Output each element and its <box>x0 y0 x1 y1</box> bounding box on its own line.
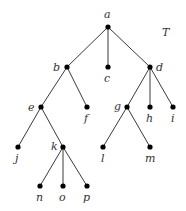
node-k <box>60 144 65 149</box>
node-c <box>105 64 110 69</box>
edge-a-d <box>108 27 150 67</box>
node-label-p: p <box>83 191 90 204</box>
node-p <box>84 183 89 188</box>
node-label-f: f <box>83 112 90 125</box>
edge-d-g <box>127 67 150 107</box>
node-label-l: l <box>101 152 105 165</box>
node-f <box>84 104 89 109</box>
edge-a-b <box>67 27 108 67</box>
node-a <box>105 24 110 29</box>
node-g <box>124 104 129 109</box>
tree-diagram: abcdefghijklmnop T <box>0 0 186 211</box>
node-label-j: j <box>12 152 19 165</box>
node-i <box>170 104 175 109</box>
node-label-o: o <box>59 191 66 204</box>
node-label-i: i <box>171 112 175 125</box>
node-label-a: a <box>104 8 111 21</box>
node-h <box>147 104 152 109</box>
edge-k-p <box>63 147 87 186</box>
node-label-e: e <box>28 101 35 114</box>
node-m <box>147 144 152 149</box>
node-d <box>147 64 152 69</box>
node-n <box>37 183 42 188</box>
node-label-m: m <box>145 152 155 165</box>
node-l <box>100 144 105 149</box>
node-e <box>38 104 43 109</box>
edge-b-f <box>67 67 87 107</box>
node-label-k: k <box>51 140 58 153</box>
node-label-n: n <box>36 191 43 204</box>
edge-g-l <box>103 107 127 147</box>
node-label-g: g <box>114 100 121 113</box>
node-o <box>60 183 65 188</box>
node-label-c: c <box>104 72 110 85</box>
tree-title: T <box>162 26 171 39</box>
node-b <box>64 64 69 69</box>
node-label-h: h <box>146 112 153 125</box>
node-label-d: d <box>156 61 163 74</box>
node-j <box>15 144 20 149</box>
node-label-b: b <box>53 61 60 74</box>
